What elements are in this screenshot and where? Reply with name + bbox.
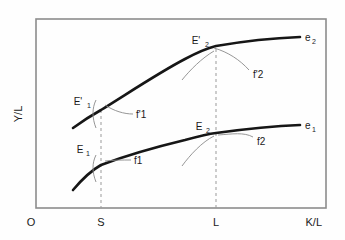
label-curve-end-e1-sub: 1 — [312, 126, 316, 133]
label-e-2: E — [196, 121, 203, 132]
label-e-prime-2: E' — [192, 35, 201, 46]
chart-canvas: E' 1 E' 2 E 1 E 2 f'1 f'2 f1 f2 e 2 e 1 … — [0, 0, 345, 240]
x-axis-title: K/L — [305, 216, 322, 228]
production-function-diagram: E' 1 E' 2 E 1 E 2 f'1 f'2 f1 f2 e 2 e 1 … — [0, 0, 345, 240]
label-e-prime-1: E' — [74, 96, 83, 107]
leader-fprime2 — [214, 48, 249, 70]
plot-frame — [36, 19, 326, 208]
leader-f1 — [105, 160, 131, 161]
label-curve-end-e1: e — [305, 120, 311, 131]
label-f1: f1 — [134, 155, 143, 166]
leader-f2 — [218, 134, 253, 137]
label-e-2-sub: 2 — [206, 127, 210, 134]
curve-lower-e1 — [73, 125, 300, 190]
y-axis-title: Y/L — [12, 106, 24, 123]
label-e-prime-2-sub: 2 — [205, 41, 209, 48]
origin-label: O — [27, 216, 36, 228]
curve-upper-e2 — [73, 37, 300, 128]
label-curve-end-e2-sub: 2 — [312, 38, 316, 45]
xtick-label-s: S — [97, 216, 104, 228]
label-fprime1: f'1 — [136, 109, 147, 120]
label-e-1-sub: 1 — [86, 150, 90, 157]
label-curve-end-e2: e — [305, 32, 311, 43]
label-e-1: E — [77, 144, 84, 155]
xtick-label-l: L — [213, 216, 219, 228]
label-f2: f2 — [257, 136, 266, 147]
label-fprime2: f'2 — [253, 69, 264, 80]
label-e-prime-1-sub: 1 — [87, 102, 91, 109]
tangent-arc-eprime2 — [182, 51, 214, 80]
